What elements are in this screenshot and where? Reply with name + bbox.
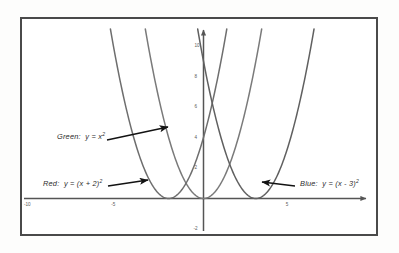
annotation-label-blue: Blue: y = (x - 3)2 xyxy=(300,178,359,188)
figure-container: -10-55 246810-2 Green: y = x2 Red: y = (… xyxy=(0,0,399,253)
y-tick-6: 6 xyxy=(195,104,198,109)
annotation-arrows xyxy=(107,127,295,186)
series-equation-green: y = x xyxy=(85,132,102,141)
pointer-arrow-blue xyxy=(262,182,295,186)
series-exponent-red: 2 xyxy=(99,178,102,184)
parabola-curves xyxy=(110,29,314,199)
y-tick-2: 2 xyxy=(195,165,198,170)
series-name-red: Red: xyxy=(43,179,64,188)
pointer-arrow-red xyxy=(108,180,148,186)
series-exponent-blue: 2 xyxy=(356,178,359,184)
y-tick-4: 4 xyxy=(195,135,198,140)
graph-canvas xyxy=(0,0,399,253)
annotation-label-green: Green: y = x2 xyxy=(57,131,105,141)
curve-blue xyxy=(198,29,314,199)
curve-red xyxy=(110,29,226,199)
series-equation-red: y = (x + 2) xyxy=(64,179,99,188)
y-tick-8: 8 xyxy=(195,74,198,79)
annotation-label-red: Red: y = (x + 2)2 xyxy=(43,178,102,188)
x-tick-5: 5 xyxy=(286,202,289,207)
y-tick-neg2: -2 xyxy=(194,226,198,231)
series-name-blue: Blue: xyxy=(300,179,322,188)
x-tick-neg5: -5 xyxy=(111,202,115,207)
series-equation-blue: y = (x - 3) xyxy=(322,179,356,188)
series-name-green: Green: xyxy=(57,132,85,141)
y-tick-10: 10 xyxy=(195,43,200,48)
x-tick-neg10: -10 xyxy=(24,202,31,207)
series-exponent-green: 2 xyxy=(102,131,105,137)
pointer-arrow-green xyxy=(107,127,168,140)
